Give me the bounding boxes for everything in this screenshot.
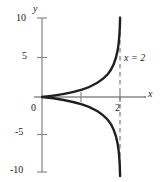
curve-upper-branch	[42, 18, 120, 97]
y-axis-label: y	[33, 4, 37, 14]
asymptote-annotation-label: x = 2	[124, 53, 145, 63]
curve-lower-branch	[42, 97, 120, 176]
x-axis-tick-label-2: 2	[115, 103, 120, 113]
y-axis-tick-label-10: 10	[16, 13, 26, 23]
y-axis-tick-label-minus10: -10	[10, 165, 23, 175]
plot-canvas	[0, 0, 165, 182]
graph-figure: 10 5 -5 -10 0 2 y x x = 2	[0, 0, 165, 182]
y-axis-tick-label-minus5: -5	[15, 127, 23, 137]
y-axis-tick-label-5: 5	[22, 51, 27, 61]
x-axis-tick-label-0: 0	[31, 103, 36, 113]
x-axis-label: x	[148, 89, 152, 99]
